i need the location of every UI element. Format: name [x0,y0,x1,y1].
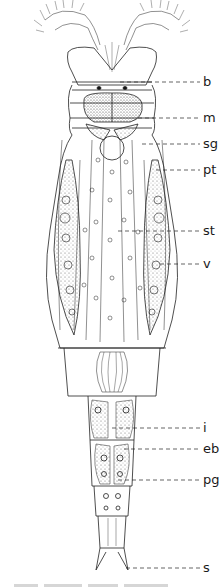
organism-illustration [0,0,224,587]
label-v: v [203,257,211,270]
leader-lines [112,82,200,568]
label-m: m [203,111,216,124]
label-sg: sg [203,137,218,150]
label-pt: pt [203,163,216,176]
label-eb: eb [203,442,219,455]
intestine [96,352,127,392]
foot-segment-4 [98,516,126,548]
spurs [96,548,128,570]
foot-segment-3 [94,486,130,516]
label-st: st [203,224,215,237]
label-pg: pg [203,473,220,486]
figure-caption-illegible [14,575,210,581]
intestine-segment [64,348,160,396]
label-b: b [203,75,211,88]
vitellarium-right [144,160,170,335]
vitellarium-left [54,160,80,335]
label-s: s [203,561,210,574]
label-i: i [203,421,207,434]
salivary-glands [86,124,138,140]
corona [34,0,190,72]
